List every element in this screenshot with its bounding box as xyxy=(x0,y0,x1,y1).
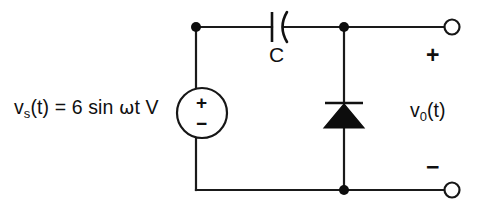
capacitor-label: C xyxy=(269,44,284,65)
source-label-rest: (t) = 6 sin xyxy=(30,96,118,118)
diode-anode-triangle xyxy=(324,104,364,128)
source-expression-label: vs(t) = 6 sin ωt V xyxy=(14,98,159,118)
junction-dot-bottom-right xyxy=(339,185,349,195)
output-minus-sign: − xyxy=(426,156,439,179)
output-plus-sign: + xyxy=(426,44,439,67)
omega-symbol: ω xyxy=(119,97,135,118)
output-voltage-label: v0(t) xyxy=(410,101,445,121)
circuit-diagram: vs(t) = 6 sin ωt V + − C v0(t) + − xyxy=(0,0,485,210)
source-plus-sign: + xyxy=(196,93,207,112)
output-terminal-bottom[interactable] xyxy=(445,183,460,198)
source-label-tail: t V xyxy=(135,96,159,118)
output-terminal-top[interactable] xyxy=(445,20,460,35)
output-label-subscript: 0 xyxy=(420,109,427,124)
source-label-subscript: s xyxy=(24,106,31,121)
junction-dot-top-right xyxy=(339,22,349,32)
source-minus-sign: − xyxy=(196,114,207,133)
output-label-rest: (t) xyxy=(427,99,445,121)
junction-dot-top-left xyxy=(191,22,201,32)
source-label-prefix: v xyxy=(14,96,24,118)
output-label-prefix: v xyxy=(410,99,420,121)
